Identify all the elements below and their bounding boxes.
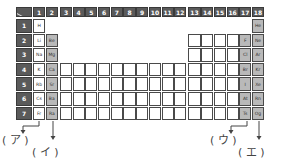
periodic-table-figure: 1234567891011121314151617181234567HHeLiB…: [0, 0, 286, 160]
label-u: ( ウ ): [210, 131, 237, 147]
arrow-lines: [0, 0, 286, 160]
label-i: ( イ ): [32, 143, 59, 159]
label-a: ( ア ): [2, 131, 29, 147]
label-e: ( エ ): [238, 143, 265, 159]
